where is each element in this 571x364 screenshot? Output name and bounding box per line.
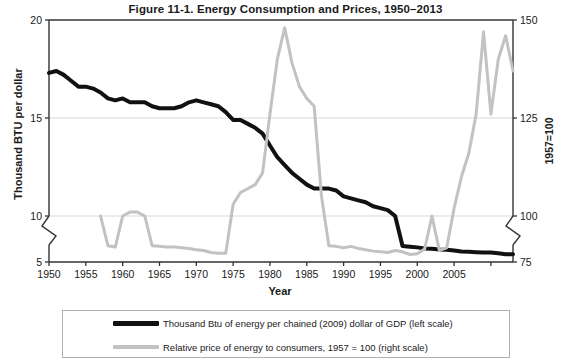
svg-text:10: 10 <box>30 210 42 222</box>
svg-text:1955: 1955 <box>74 268 98 280</box>
legend-swatch-black-icon <box>113 321 159 326</box>
svg-text:5: 5 <box>36 256 42 268</box>
svg-text:20: 20 <box>30 14 42 26</box>
svg-text:1995: 1995 <box>369 268 393 280</box>
svg-text:1965: 1965 <box>148 268 172 280</box>
svg-text:1950: 1950 <box>37 268 61 280</box>
svg-text:2005: 2005 <box>442 268 466 280</box>
svg-text:1970: 1970 <box>185 268 209 280</box>
data-lines <box>49 28 513 255</box>
svg-text:1985: 1985 <box>295 268 319 280</box>
figure-container: Figure 11-1. Energy Consumption and Pric… <box>0 0 571 364</box>
svg-text:1980: 1980 <box>258 268 282 280</box>
svg-text:1990: 1990 <box>332 268 356 280</box>
axes <box>42 20 520 266</box>
legend-item-energy-intensity: Thousand Btu of energy per chained (2009… <box>63 311 509 335</box>
svg-text:2000: 2000 <box>406 268 430 280</box>
legend-item-relative-price: Relative price of energy to consumers, 1… <box>63 335 509 359</box>
svg-text:1960: 1960 <box>111 268 135 280</box>
svg-text:15: 15 <box>30 112 42 124</box>
legend-label-energy-intensity: Thousand Btu of energy per chained (2009… <box>163 318 453 329</box>
gridlines <box>49 118 513 216</box>
svg-text:150: 150 <box>520 14 538 26</box>
legend: Thousand Btu of energy per chained (2009… <box>62 310 510 358</box>
chart-plot-area: 5101520751001251501950195519601965197019… <box>0 0 571 310</box>
legend-swatch-gray-icon <box>113 345 159 349</box>
svg-text:1975: 1975 <box>221 268 245 280</box>
svg-text:75: 75 <box>520 256 532 268</box>
legend-label-relative-price: Relative price of energy to consumers, 1… <box>163 342 428 353</box>
svg-text:100: 100 <box>520 210 538 222</box>
svg-text:125: 125 <box>520 112 538 124</box>
